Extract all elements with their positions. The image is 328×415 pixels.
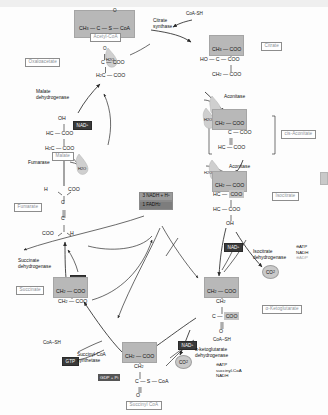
citrate-line1: CH3 — COO bbox=[209, 35, 244, 56]
coash-left: CoA–SH bbox=[43, 341, 61, 346]
akg-line1: CH2 — COO bbox=[204, 277, 239, 298]
oaa-line1: C — COO bbox=[101, 60, 125, 65]
regulation-akg-dh: ⊖ATP succinyl-CoA NADH bbox=[216, 362, 242, 379]
fumarate-c-top: C bbox=[61, 200, 65, 205]
succinyl-coa-line4: O bbox=[136, 393, 140, 398]
akg-line2: CH2 bbox=[216, 299, 226, 305]
water-droplets bbox=[76, 48, 221, 180]
enzyme-succinate-dehydrogenase: Succinate dehydrogenase bbox=[18, 258, 51, 269]
cis-aconitate-line3: HC — COO bbox=[218, 145, 245, 150]
akg-line3: C — COO bbox=[212, 314, 239, 319]
enzyme-malate-dehydrogenase: Malate dehydrogenase bbox=[36, 89, 69, 100]
isocitrate-line1: CH2 — COO bbox=[212, 171, 247, 192]
fumarate-coo-top: COO bbox=[68, 187, 80, 192]
tca-cycle-diagram: CH3 — C — S — CoA O Acetyl-CoA Citrate s… bbox=[0, 0, 328, 415]
chip-nad-malate: NAD+ bbox=[73, 121, 92, 130]
fumarate-h-bottom: H bbox=[70, 231, 74, 236]
page-edge-marker bbox=[320, 172, 328, 185]
co2-bubble-2: CO2 bbox=[175, 355, 192, 369]
water-label-4: H2O bbox=[78, 167, 86, 172]
enzyme-succinyl-coa-synthetase: Succinyl-CoA synthetase bbox=[77, 352, 106, 363]
enzyme-citrate-synthase: Citrate synthase bbox=[153, 18, 172, 29]
fumarate-coo-bottom: COO bbox=[42, 231, 54, 236]
water-label-2: H2O bbox=[204, 118, 212, 123]
water-label-3: H2O bbox=[204, 171, 212, 176]
isocitrate-line3: HC — COO bbox=[213, 207, 240, 212]
enzyme-aconitase-1: Aconitase bbox=[224, 94, 245, 100]
fumarate-c-bottom: C bbox=[61, 216, 65, 221]
oaa-carbonyl-o: O bbox=[103, 47, 107, 52]
label-succinate: Succinate bbox=[16, 286, 44, 295]
label-oxaloacetate: Oxaloacetate bbox=[25, 58, 60, 67]
cis-aconitate-line2: C — COO bbox=[228, 130, 252, 135]
enzyme-akg-dehydrogenase: α-ketoglutarate dehydrogenase bbox=[195, 347, 228, 358]
cis-aconitate-line1: CH2 — COO bbox=[212, 109, 247, 130]
yield-box: 3 NADH + H+ 1 FADH2 bbox=[139, 192, 173, 210]
succinyl-coa-line1: CH2 — COO bbox=[122, 342, 157, 363]
acetyl-coa-ch3: CH bbox=[79, 25, 87, 31]
acetyl-coa-carbonyl-o: O bbox=[113, 9, 117, 14]
isocitrate-line4: OH bbox=[226, 221, 234, 226]
regulation-isocitrate-dh: ⊖ATP NADH ⊕ADP bbox=[296, 244, 308, 261]
label-citrate: Citrate bbox=[261, 42, 282, 51]
citrate-line2: HO — C — COO bbox=[200, 57, 239, 62]
enzyme-isocitrate-dehydrogenase: Isocitrate dehydrogenase bbox=[253, 249, 286, 260]
enzyme-fumarase: Fumarase bbox=[28, 160, 50, 166]
oaa-line2: H2C — COO bbox=[96, 73, 125, 79]
label-isocitrate: Isocitrate bbox=[272, 192, 299, 201]
akg-line4: O bbox=[219, 329, 223, 334]
succinyl-coa-line3: C — S — CoA bbox=[135, 379, 168, 384]
label-cis-aconitate: cis-Aconitate bbox=[281, 130, 316, 139]
succinate-line2: CH2 — COO bbox=[58, 299, 87, 305]
label-succinyl-coa: Succinyl CoA bbox=[126, 401, 162, 410]
coash-top: CoA-SH bbox=[186, 12, 203, 17]
enzyme-aconitase-2: Aconitase bbox=[229, 164, 250, 170]
chip-nad-isocitrate: NAD+ bbox=[224, 243, 243, 252]
label-malate: Malate bbox=[52, 152, 74, 161]
succinyl-coa-line2: CH2 bbox=[134, 364, 144, 370]
yield-fadh2: 1 FADH2 bbox=[139, 201, 173, 210]
fumarate-h-top: H bbox=[44, 187, 48, 192]
coash-akg: CoA–SH bbox=[213, 338, 231, 343]
label-acetyl-coa: Acetyl-CoA bbox=[90, 33, 121, 42]
label-alpha-ketoglutarate: α-Ketoglutarate bbox=[262, 305, 302, 314]
chip-gdp: GDP + Pi bbox=[98, 374, 120, 381]
citrate-line3: CH2 — COO bbox=[212, 72, 241, 78]
yield-nadh: 3 NADH + H+ bbox=[139, 192, 173, 201]
malate-oh: OH bbox=[58, 116, 66, 121]
succinate-line1: CH2 — COO bbox=[53, 277, 88, 298]
isocitrate-line2: HC — COO bbox=[213, 192, 244, 197]
label-fumarate: Fumarate bbox=[14, 203, 42, 212]
co2-bubble-1: CO2 bbox=[262, 265, 279, 279]
malate-line1: HC — COO bbox=[46, 131, 73, 136]
